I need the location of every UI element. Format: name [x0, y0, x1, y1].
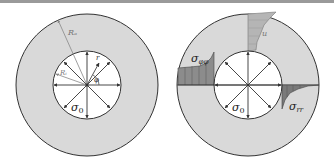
right-cylinder: u σφφ σrr [177, 12, 319, 156]
outer-radius-label: Rₐ [67, 28, 77, 37]
angle-label: φ [94, 76, 99, 84]
thick-walled-cylinder-diagram: Rₐ Rᵢ r φ σ0 u [0, 0, 334, 163]
displacement-label: u [262, 29, 267, 38]
inner-radius-label: Rᵢ [59, 69, 67, 77]
center-point [85, 83, 88, 86]
left-cylinder: Rₐ Rᵢ r φ σ0 [16, 14, 158, 156]
